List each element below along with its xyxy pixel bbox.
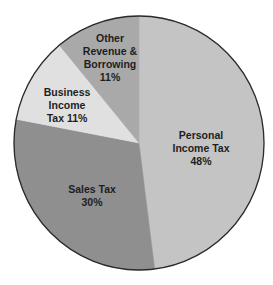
label-value: 30%	[81, 196, 103, 208]
label-line: Income Tax	[173, 142, 230, 154]
label-line: Personal	[179, 129, 223, 141]
label-line: Borrowing	[84, 58, 137, 70]
label-value: 11%	[100, 71, 121, 83]
label-value: 48%	[190, 155, 212, 167]
label-line: Other	[96, 32, 124, 44]
label-value: Tax 11%	[47, 112, 88, 124]
label-line: Sales Tax	[68, 183, 116, 195]
label-line: Revenue &	[83, 45, 138, 57]
slice-label-business-income-tax: Business Income Tax 11%	[44, 86, 91, 124]
label-line: Income	[49, 99, 86, 111]
label-line: Business	[44, 86, 91, 98]
pie-chart: Personal Income Tax 48% Sales Tax 30% Bu…	[0, 0, 273, 285]
